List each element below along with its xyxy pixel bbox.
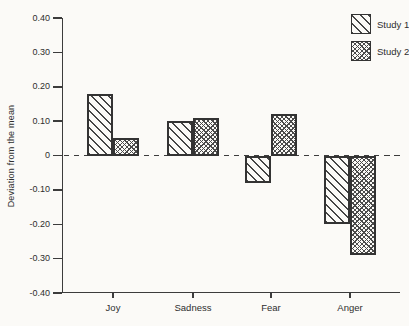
- crosshatch-swatch-icon: [351, 41, 371, 61]
- y-tick-label: 0.30: [16, 47, 50, 58]
- y-axis-tick: [53, 292, 62, 294]
- y-axis-title: Deviation from the mean: [6, 105, 16, 208]
- legend-label-study-2: Study 2: [377, 46, 409, 57]
- legend-label-study-1: Study 1: [377, 19, 409, 30]
- y-axis-tick: [53, 224, 62, 226]
- x-axis-tick: [192, 293, 194, 298]
- x-axis-label: Anger: [315, 302, 385, 313]
- y-tick-label: 0.20: [16, 81, 50, 92]
- bar-sadness-study-1: [167, 121, 193, 155]
- y-tick-label: 0.10: [16, 116, 50, 127]
- x-axis-tick: [349, 293, 351, 298]
- x-axis-label: Sadness: [158, 302, 228, 313]
- bar-joy-study-1: [87, 94, 113, 156]
- y-tick-label: 0: [16, 150, 50, 161]
- y-axis-tick: [53, 120, 62, 122]
- bar-fear-study-1: [245, 156, 271, 184]
- bar-joy-study-2: [113, 138, 139, 155]
- legend: Study 1 Study 2: [351, 14, 409, 61]
- x-axis-label: Fear: [236, 302, 306, 313]
- y-tick-label: 0.40: [16, 13, 50, 24]
- legend-item-study-2: Study 2: [351, 41, 409, 61]
- bar-anger-study-1: [324, 156, 350, 225]
- y-tick-label: -0.20: [16, 219, 50, 230]
- y-tick-label: -0.10: [16, 184, 50, 195]
- y-axis-tick: [53, 258, 62, 260]
- bar-sadness-study-2: [193, 118, 219, 156]
- bar-fear-study-2: [271, 114, 297, 155]
- y-axis-tick: [53, 155, 62, 157]
- y-axis-tick: [53, 17, 62, 19]
- x-axis-tick: [270, 293, 272, 298]
- legend-item-study-1: Study 1: [351, 14, 409, 34]
- y-axis-tick: [53, 189, 62, 191]
- y-axis-tick: [53, 52, 62, 54]
- diagonal-hatch-swatch-icon: [351, 14, 371, 34]
- x-axis-label: Joy: [78, 302, 148, 313]
- bar-anger-study-2: [350, 156, 376, 256]
- x-axis-tick: [112, 293, 114, 298]
- y-axis-tick: [53, 86, 62, 88]
- y-tick-label: -0.30: [16, 253, 50, 264]
- bar-chart-figure: Deviation from the mean Study 1 Study 2 …: [0, 0, 409, 326]
- y-tick-label: -0.40: [16, 288, 50, 299]
